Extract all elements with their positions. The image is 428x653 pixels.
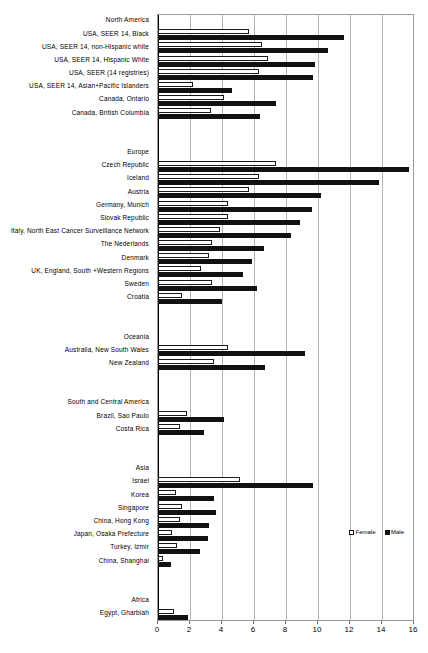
bar-female	[158, 556, 163, 561]
bar-male	[158, 523, 209, 528]
bar-row	[158, 56, 413, 69]
category-label: Sweden	[125, 280, 149, 288]
bar-row	[158, 411, 413, 424]
bar-row	[158, 174, 413, 187]
bar-male	[158, 272, 243, 277]
bar-female	[158, 69, 259, 74]
bar-male	[158, 180, 379, 185]
legend-swatch-female-icon	[349, 530, 354, 535]
x-tick-label-2: 2	[187, 625, 191, 635]
category-label: Slovak Republic	[100, 214, 149, 222]
x-tick-4	[221, 621, 222, 624]
x-tick-label-6: 6	[251, 625, 255, 635]
bar-male	[158, 167, 409, 172]
bar-male	[158, 101, 276, 106]
bar-female	[158, 240, 212, 245]
bar-female	[158, 29, 249, 34]
bar-female	[158, 359, 214, 364]
legend: Female Male	[349, 528, 404, 536]
bar-male	[158, 417, 224, 422]
category-label: Korea	[131, 491, 149, 499]
bar-row	[158, 201, 413, 214]
bar-row	[158, 214, 413, 227]
category-label: Brazil, Sao Paulo	[97, 412, 149, 420]
category-label: Japan, Osaka Prefecture	[74, 530, 149, 538]
bar-male	[158, 299, 222, 304]
category-label: Denmark	[122, 254, 149, 262]
bar-row	[158, 556, 413, 569]
bar-female	[158, 227, 220, 232]
x-tick-12	[349, 621, 350, 624]
bar-female	[158, 517, 180, 522]
x-axis: 0246810121416	[157, 621, 414, 643]
bar-row	[158, 42, 413, 55]
bar-male	[158, 351, 305, 356]
category-label: Israel	[132, 477, 149, 485]
bar-male	[158, 365, 265, 370]
bar-male	[158, 193, 321, 198]
category-label: Austria	[128, 188, 149, 196]
bar-male	[158, 536, 208, 541]
region-label: Africa	[131, 596, 149, 604]
category-label: Croatia	[127, 293, 149, 301]
category-label: Singapore	[118, 504, 149, 512]
category-label: Australia, New South Wales	[65, 346, 149, 354]
bar-row	[158, 543, 413, 556]
bar-male	[158, 88, 232, 93]
bar-female	[158, 42, 262, 47]
bar-female	[158, 266, 201, 271]
bar-female	[158, 187, 249, 192]
category-label: USA, SEER (14 registries)	[69, 69, 149, 77]
bar-male	[158, 286, 257, 291]
bar-female	[158, 477, 240, 482]
bar-male	[158, 496, 214, 501]
bar-row	[158, 82, 413, 95]
region-label: North America	[106, 16, 149, 24]
bar-female	[158, 174, 259, 179]
legend-swatch-male-icon	[385, 530, 390, 535]
category-label: China, Hong Kong	[93, 517, 149, 525]
x-tick-label-16: 16	[409, 625, 418, 635]
category-label: Germany, Munich	[96, 201, 149, 209]
bar-male	[158, 483, 313, 488]
bar-male	[158, 35, 344, 40]
x-tick-0	[157, 621, 158, 624]
x-tick-label-12: 12	[345, 625, 354, 635]
bar-row	[158, 108, 413, 121]
bar-male	[158, 62, 315, 67]
bar-row	[158, 359, 413, 372]
bar-female	[158, 293, 182, 298]
x-tick-10	[317, 621, 318, 624]
bar-row	[158, 29, 413, 42]
bar-female	[158, 253, 209, 258]
bar-male	[158, 549, 200, 554]
category-label: New Zealand	[109, 359, 149, 367]
category-label: China, Shanghai	[99, 557, 149, 565]
bar-female	[158, 345, 228, 350]
bar-female	[158, 95, 224, 100]
category-label: USA, SEER 14, Hispanic White	[54, 56, 149, 64]
bar-male	[158, 430, 204, 435]
region-label: South and Central America	[68, 398, 149, 406]
bar-male	[158, 48, 328, 53]
category-label: Costa Rica	[116, 425, 149, 433]
x-tick-label-14: 14	[377, 625, 386, 635]
x-tick-2	[189, 621, 190, 624]
bar-row	[158, 161, 413, 174]
bar-female	[158, 411, 187, 416]
category-label: USA, SEER 14, Black	[83, 30, 149, 38]
bar-female	[158, 490, 176, 495]
region-label: Asia	[136, 464, 149, 472]
x-tick-16	[413, 621, 414, 624]
bar-row	[158, 187, 413, 200]
bar-row	[158, 69, 413, 82]
category-label: Italy, North East Cancer Surveillance Ne…	[11, 227, 149, 235]
x-tick-14	[381, 621, 382, 624]
bar-female	[158, 609, 174, 614]
bar-male	[158, 510, 216, 515]
x-tick-6	[253, 621, 254, 624]
bar-row	[158, 424, 413, 437]
bar-female	[158, 56, 268, 61]
bar-row	[158, 490, 413, 503]
category-label: The Nederlands	[101, 240, 149, 248]
